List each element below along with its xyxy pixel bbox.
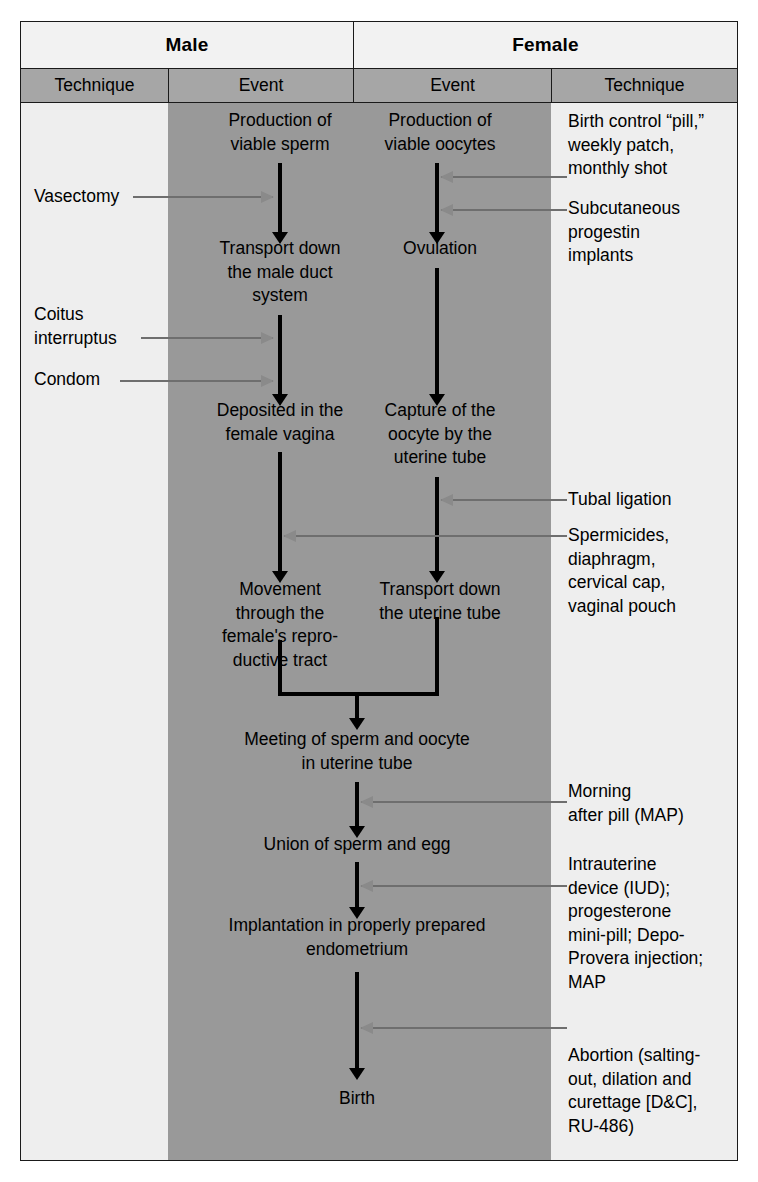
diagram-page: Male Female Technique Event Event Techni…	[0, 0, 758, 1182]
flow-arrow-shared-2	[355, 862, 359, 908]
flow-arrow-female-2	[435, 268, 439, 395]
merge-line-female	[435, 617, 439, 696]
pointer-coitus-interruptus	[141, 337, 273, 339]
flow-arrow-male-1	[278, 163, 282, 233]
technique-spermicides[interactable]: Spermicides, diaphragm, cervical cap, va…	[568, 524, 743, 618]
flow-arrow-shared-3	[355, 972, 359, 1069]
flow-arrow-female-1	[435, 163, 439, 233]
event-birth: Birth	[277, 1087, 437, 1111]
event-meeting: Meeting of sperm and oocyte in uterine t…	[177, 728, 537, 775]
header-row-sex: Male Female	[21, 22, 737, 69]
event-male-transport: Transport down the male duct system	[185, 237, 375, 308]
event-male-deposited: Deposited in the female vagina	[180, 399, 380, 446]
flow-arrow-male-2	[278, 315, 282, 395]
pointer-birth-control-pill	[441, 176, 567, 178]
pointer-abortion	[361, 1027, 567, 1029]
technique-tubal-ligation[interactable]: Tubal ligation	[568, 488, 743, 512]
event-implantation: Implantation in properly prepared endome…	[162, 914, 552, 961]
header-male: Male	[21, 22, 353, 68]
header-female: Female	[353, 22, 737, 68]
pointer-morning-after-pill	[361, 801, 567, 803]
event-female-transport: Transport down the uterine tube	[347, 578, 533, 625]
technique-progestin-implants[interactable]: Subcutaneous progestin implants	[568, 197, 743, 268]
flow-arrow-shared-1	[355, 782, 359, 827]
event-female-ovulation: Ovulation	[352, 237, 528, 261]
pointer-vasectomy	[133, 196, 273, 198]
header-row-columns: Technique Event Event Technique	[21, 69, 737, 103]
header-female-event: Event	[353, 69, 551, 102]
flow-arrow-merge	[355, 692, 359, 719]
event-union: Union of sperm and egg	[177, 833, 537, 857]
pointer-tubal-ligation	[441, 499, 567, 501]
pointer-iud	[361, 885, 567, 887]
flow-arrow-female-3	[435, 477, 439, 572]
event-male-production: Production of viable sperm	[185, 109, 375, 156]
header-male-event: Event	[168, 69, 353, 102]
flow-arrow-male-3	[278, 452, 282, 572]
header-female-technique: Technique	[551, 69, 737, 102]
event-female-production: Production of viable oocytes	[352, 109, 528, 156]
technique-iud[interactable]: Intrauterine device (IUD); progesterone …	[568, 853, 743, 994]
event-female-capture: Capture of the oocyte by the uterine tub…	[352, 399, 528, 470]
technique-morning-after-pill[interactable]: Morning after pill (MAP)	[568, 780, 743, 827]
technique-abortion[interactable]: Abortion (salting- out, dilation and cur…	[568, 1044, 748, 1138]
pointer-condom	[120, 380, 273, 382]
technique-birth-control-pill[interactable]: Birth control “pill,” weekly patch, mont…	[568, 110, 743, 181]
pointer-spermicides	[284, 535, 567, 537]
technique-coitus-interruptus[interactable]: Coitus interruptus	[34, 303, 164, 350]
header-male-technique: Technique	[21, 69, 168, 102]
merge-line-male	[278, 640, 282, 696]
pointer-progestin-implants	[441, 209, 567, 211]
